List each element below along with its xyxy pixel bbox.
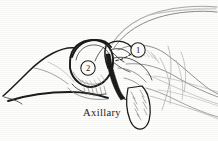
anatomy-drawing: 1 2 Axillary <box>0 0 218 141</box>
upper-right-contour-group <box>112 6 217 48</box>
anatomy-figure: 1 2 Axillary <box>0 0 218 141</box>
inferior-process-outline <box>127 86 151 129</box>
spine-superior-border <box>3 48 76 96</box>
axillary-label: Axillary <box>83 107 121 118</box>
deltoid-lateral-contour <box>181 52 186 92</box>
callout-2-number: 2 <box>86 63 90 73</box>
capsule-fold-3 <box>114 57 152 80</box>
capsule-fold-4 <box>118 68 146 82</box>
spine-inferior-border <box>8 92 108 101</box>
inferior-soft-tissue-contour-2 <box>150 96 218 119</box>
callout-1[interactable]: 1 <box>131 43 145 57</box>
callout-2[interactable]: 2 <box>81 61 95 75</box>
callout-1-number: 1 <box>136 45 140 55</box>
clavicle-inferior-border <box>114 11 217 48</box>
